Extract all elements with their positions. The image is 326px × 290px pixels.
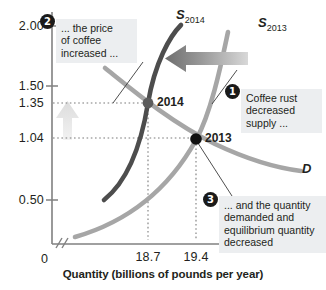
callout-3-line-3: equilibrium quantity [224, 224, 322, 236]
y-tick-label-2-00: 2.00 [0, 19, 44, 33]
equilibrium-point-2014 [143, 98, 154, 109]
supply-shift-arrow [165, 45, 248, 72]
callout-1-line-3: supply ... [246, 117, 318, 129]
demand-label: D [302, 161, 311, 176]
supply-2013-label-sub: 2013 [267, 23, 287, 33]
x-tick-label-19-4: 19.4 [172, 250, 220, 264]
supply-demand-chart: 2.00 1.50 1.35 1.04 0.50 0 18.7 19.4 Qua… [0, 0, 326, 290]
callout-1-line-2: decreased [246, 104, 318, 116]
y-tick-label-0-50: 0.50 [0, 193, 44, 207]
callout-box-2: ... the price of coffee increased ... [56, 19, 137, 63]
callout-badge-1: 1 [225, 84, 240, 99]
callout-3-line-1: ... and the quantity [224, 199, 322, 211]
y-tick-label-1-35: 1.35 [0, 96, 44, 110]
y-tick-label-1-50: 1.50 [0, 79, 44, 93]
callout-badge-3: 3 [203, 192, 218, 207]
y-tick-label-1-04: 1.04 [0, 131, 44, 145]
equilibrium-label-2013: 2013 [205, 131, 232, 145]
x-axis-title: Quantity (billions of pounds per year) [0, 268, 326, 280]
callout-box-3: ... and the quantity demanded and equili… [219, 196, 326, 253]
equilibrium-point-2013 [190, 133, 202, 145]
supply-2014-label-sub: 2014 [185, 15, 205, 25]
supply-2013-label: S2013 [258, 15, 287, 33]
price-increase-arrow [56, 101, 79, 140]
equilibrium-label-2014: 2014 [157, 95, 184, 109]
callout-3-line-2: demanded and [224, 211, 322, 223]
supply-2013-label-text: S [258, 15, 267, 30]
callout-3-line-4: decreased [224, 236, 322, 248]
x-tick-label-18-7: 18.7 [124, 250, 172, 264]
axis-break-icon [56, 238, 68, 248]
callout-2-line-1: ... the price [61, 22, 133, 34]
callout-badge-2: 2 [40, 14, 55, 29]
callout-box-1: Coffee rust decreased supply ... [241, 89, 322, 133]
callout-2-line-3: increased ... [61, 47, 133, 59]
callout-1-line-1: Coffee rust [246, 92, 318, 104]
supply-2014-label-text: S [176, 7, 185, 22]
callout-2-line-2: of coffee [61, 34, 133, 46]
supply-2014-label: S2014 [176, 7, 205, 25]
origin-label: 0 [41, 252, 48, 266]
